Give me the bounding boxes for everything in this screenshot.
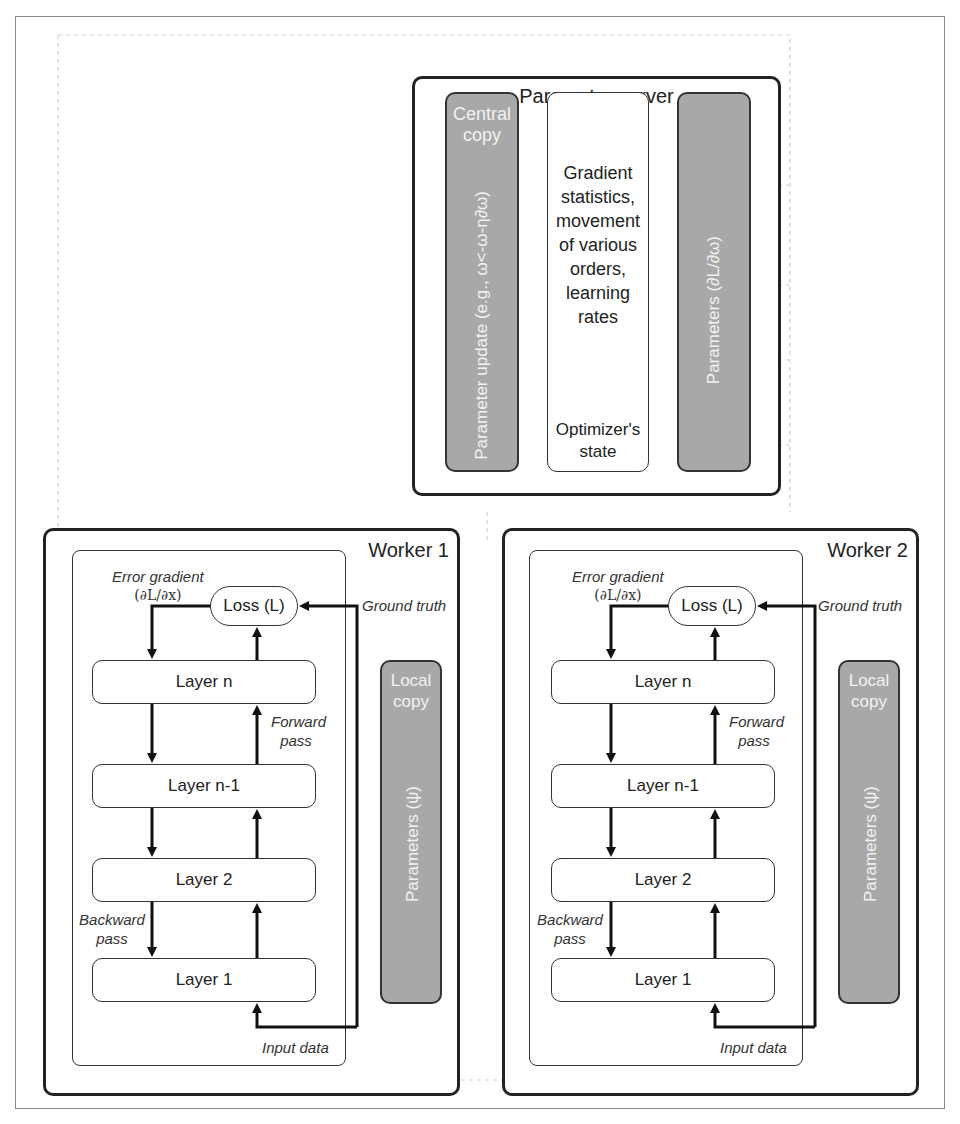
flow-arrows <box>0 0 960 1124</box>
